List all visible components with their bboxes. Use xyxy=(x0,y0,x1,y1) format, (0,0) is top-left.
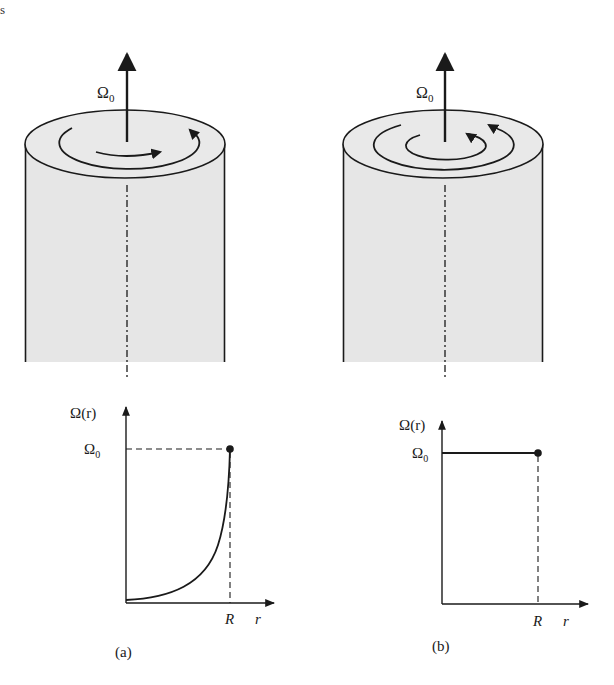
cylinder-a: Ω0 xyxy=(25,54,225,380)
x-tick-R: R xyxy=(224,611,234,627)
caption-b: (b) xyxy=(432,638,450,655)
endpoint-dot xyxy=(534,449,542,457)
y-axis-label: Ω(r) xyxy=(70,405,96,422)
x-axis-label: r xyxy=(563,613,569,629)
figure: Ω0 Ω0 Ω(r) Ω0 R r (a) Ω(r) xyxy=(0,0,614,685)
plot-b: Ω(r) Ω0 R r (b) xyxy=(399,417,588,655)
endpoint-dot xyxy=(226,445,234,453)
y-tick-label: Ω0 xyxy=(412,445,428,464)
x-axis-label: r xyxy=(255,611,261,627)
y-tick-label: Ω0 xyxy=(84,441,100,460)
rotation-label: Ω0 xyxy=(97,84,115,104)
rotation-label: Ω0 xyxy=(416,84,434,104)
y-axis-label: Ω(r) xyxy=(399,417,425,434)
cylinder-b: Ω0 xyxy=(343,54,543,380)
x-tick-R: R xyxy=(532,613,542,629)
omega-curve xyxy=(126,449,230,600)
plot-a: Ω(r) Ω0 R r (a) xyxy=(70,405,274,661)
cylinder-top xyxy=(25,110,225,178)
caption-a: (a) xyxy=(115,644,132,661)
